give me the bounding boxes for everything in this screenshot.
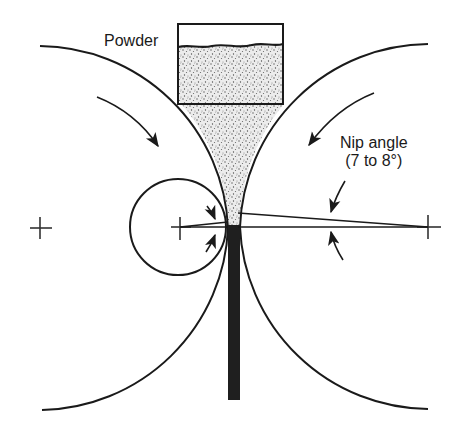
detail-arrow-lower-icon — [206, 235, 215, 252]
nip-arrow-lower-icon — [331, 232, 343, 260]
detail-center-icon — [171, 217, 191, 240]
detail-angle-line-upper — [180, 222, 228, 227]
nip-angle-line-upper — [238, 213, 428, 227]
roll-compaction-diagram — [0, 0, 449, 437]
nip-angle-label-range: (7 to 8°) — [340, 152, 408, 170]
nip-angle-label: Nip angle (7 to 8°) — [340, 134, 408, 170]
left-roll-center-icon — [30, 217, 52, 239]
detail-arrow-upper-icon — [207, 206, 215, 219]
nip-arrow-upper-icon — [331, 181, 345, 212]
nip-angle-label-title: Nip angle — [340, 134, 408, 152]
powder-label: Powder — [104, 32, 158, 50]
compacted-strip — [228, 225, 240, 400]
left-roll-rotation-arrow-icon — [97, 97, 158, 146]
